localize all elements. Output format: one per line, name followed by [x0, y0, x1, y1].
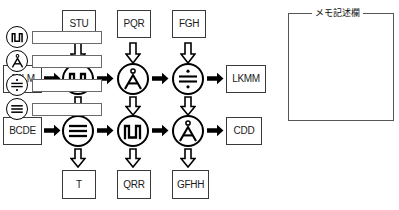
bottom-box-gfhh[interactable]: GFHH	[172, 170, 209, 199]
arrow-right-icon	[44, 124, 61, 137]
memo-row	[6, 98, 102, 120]
arrow-down-icon	[70, 148, 86, 168]
top-box-pqr[interactable]: PQR	[117, 10, 151, 38]
arrow-down-icon	[180, 148, 196, 168]
memo-row	[6, 74, 102, 96]
flow-diagram-canvas: STU PQR FGH JKLM	[0, 0, 399, 210]
arrow-down-icon	[125, 96, 141, 116]
divide-icon	[6, 74, 28, 96]
arrow-down-icon	[125, 42, 141, 64]
memo-panel-title: メモ記述欄	[312, 7, 363, 19]
bottom-box-t[interactable]: T	[62, 170, 96, 199]
operator-a-ring[interactable]	[172, 115, 204, 147]
a-ring-icon	[6, 50, 28, 72]
memo-input-a-ring[interactable]	[32, 55, 102, 68]
memo-row	[6, 26, 102, 48]
output-box-cdd[interactable]: CDD	[226, 117, 262, 145]
arrow-down-icon	[180, 42, 196, 64]
bottom-box-qrr[interactable]: QRR	[117, 170, 151, 199]
pulse-wave-icon	[123, 122, 143, 140]
arrow-down-icon	[180, 96, 196, 116]
operator-pulse-wave[interactable]	[117, 115, 149, 147]
pulse-wave-icon	[6, 26, 28, 48]
a-ring-icon	[123, 68, 143, 90]
memo-row	[6, 50, 102, 72]
memo-panel	[288, 13, 394, 121]
divide-icon	[177, 68, 199, 90]
operator-divide[interactable]	[172, 63, 204, 95]
arrow-right-icon	[207, 72, 224, 85]
operator-a-ring[interactable]	[117, 63, 149, 95]
triple-bar-icon	[67, 122, 89, 140]
top-box-fgh[interactable]: FGH	[172, 10, 206, 38]
input-box-bcde[interactable]: BCDE	[3, 117, 42, 145]
arrow-right-icon	[207, 124, 224, 137]
output-box-lkmm[interactable]: LKMM	[226, 65, 266, 93]
triple-bar-icon	[6, 98, 28, 120]
arrow-right-icon	[152, 124, 169, 137]
a-ring-icon	[178, 120, 198, 142]
arrow-right-icon	[152, 72, 169, 85]
memo-input-triple-bar[interactable]	[32, 103, 102, 116]
memo-input-pulse-wave[interactable]	[32, 31, 102, 44]
arrow-down-icon	[125, 148, 141, 168]
arrow-right-icon	[97, 124, 114, 137]
memo-input-divide[interactable]	[32, 79, 102, 92]
